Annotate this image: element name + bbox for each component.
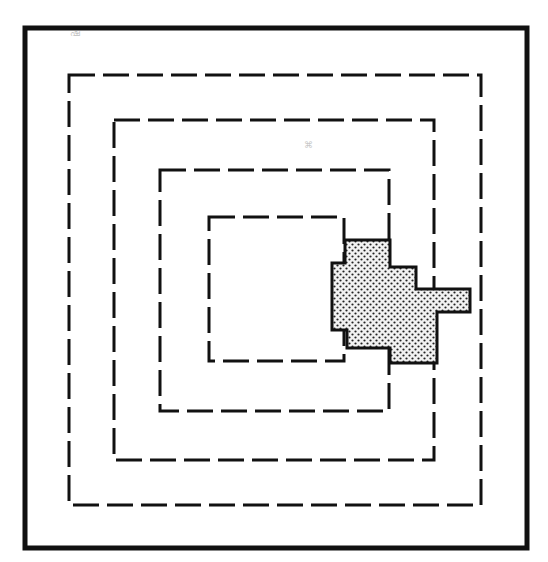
stray-mark: ⌘ (304, 140, 313, 150)
stray-mark: ഷ (70, 28, 80, 38)
nested-zones-diagram: ഷ⌘ (0, 0, 548, 562)
zone-4 (209, 217, 344, 361)
stray-marks: ഷ⌘ (70, 28, 313, 150)
shaded-region (332, 240, 470, 363)
